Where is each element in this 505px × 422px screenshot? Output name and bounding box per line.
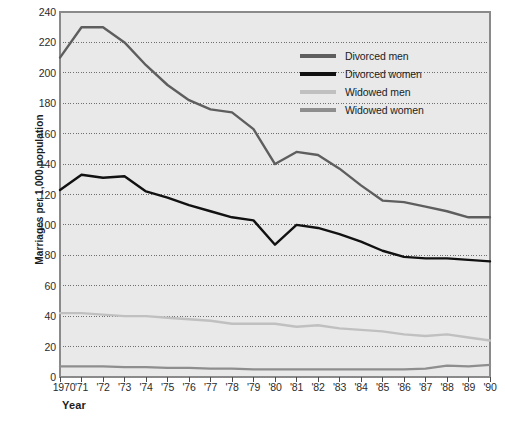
x-axis-tick-label: 1970: [53, 381, 76, 393]
x-axis-tick-label: '87: [419, 381, 432, 393]
x-axis-tick-label: '78: [225, 381, 238, 393]
x-axis-tick-label: '74: [139, 381, 152, 393]
x-axis-tick-label: '71: [75, 381, 88, 393]
x-axis-tick-label: '83: [333, 381, 346, 393]
x-axis-tick-label: '89: [462, 381, 475, 393]
legend-item: Widowed men: [300, 83, 470, 101]
line-chart: Marriages per 1,000 population 020406080…: [0, 0, 505, 422]
legend-item-label: Divorced men: [345, 50, 409, 62]
x-axis-tick-label: '77: [204, 381, 217, 393]
legend-item: Widowed women: [300, 101, 470, 119]
legend-item-label: Widowed men: [345, 86, 410, 98]
x-axis-tick-label: '86: [397, 381, 410, 393]
chart-legend: Divorced menDivorced womenWidowed menWid…: [300, 47, 470, 119]
legend-swatch-icon: [300, 108, 336, 112]
x-axis-tick-label: '76: [182, 381, 195, 393]
x-axis-tick-label: '80: [268, 381, 281, 393]
x-axis-tick-label: '72: [96, 381, 109, 393]
legend-swatch-icon: [300, 72, 336, 76]
legend-item: Divorced women: [300, 65, 470, 83]
x-axis-tick-label: '81: [290, 381, 303, 393]
x-axis-tick-label: '85: [376, 381, 389, 393]
legend-swatch-icon: [300, 90, 336, 94]
x-axis-tick-label: '79: [247, 381, 260, 393]
x-axis-tick-label: '88: [440, 381, 453, 393]
legend-item: Divorced men: [300, 47, 470, 65]
legend-swatch-icon: [300, 54, 336, 58]
x-axis-tick-label: '73: [118, 381, 131, 393]
x-axis-tick-label: '75: [161, 381, 174, 393]
x-axis-tick-label: '82: [311, 381, 324, 393]
x-axis-tick-label: '90: [483, 381, 496, 393]
x-axis-tick-label: '84: [354, 381, 367, 393]
x-axis-title: Year: [62, 399, 86, 411]
legend-item-label: Divorced women: [345, 68, 422, 80]
legend-item-label: Widowed women: [345, 104, 424, 116]
